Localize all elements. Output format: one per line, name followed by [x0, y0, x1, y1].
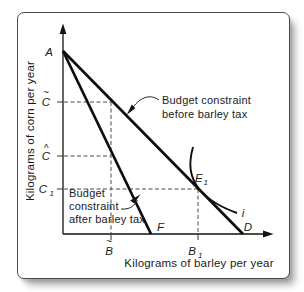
label-b1-sub: 1	[198, 251, 202, 260]
budget-constraint-diagram: Kilograms of barley per year Kilograms o…	[18, 13, 289, 278]
label-a: A	[44, 46, 53, 58]
label-b-tilde-accent: ~	[106, 236, 112, 247]
y-axis-arrowhead-icon	[60, 24, 67, 35]
annotation-after-line2: constraint	[69, 200, 119, 212]
label-c-tilde-accent: ~	[43, 87, 49, 98]
annotation-before-line2: before barley tax	[162, 108, 248, 120]
annotation-after-line3: after barley tax	[69, 213, 145, 225]
figure-card: Kilograms of barley per year Kilograms o…	[17, 12, 290, 279]
label-c1-sub: 1	[50, 189, 54, 198]
label-c-hat-accent: ^	[44, 143, 49, 154]
label-e1-sub: 1	[204, 178, 208, 187]
annotation-before-line1: Budget constraint	[162, 94, 251, 106]
y-axis-title: Kilograms of corn per year	[24, 61, 36, 201]
label-e1: E	[195, 172, 203, 184]
label-c1: C	[39, 183, 48, 195]
label-b1: B	[188, 245, 196, 257]
label-i: i	[242, 207, 245, 219]
before-annotation-leader	[131, 97, 159, 110]
annotation-after-line1: Budget	[69, 187, 105, 199]
label-d: D	[244, 221, 252, 233]
label-f: F	[157, 221, 165, 233]
x-axis-arrowhead-icon	[263, 231, 274, 238]
